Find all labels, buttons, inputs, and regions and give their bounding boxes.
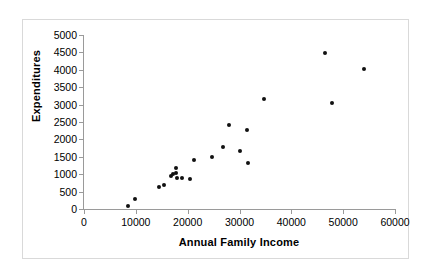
y-axis-tick-label: 1500 [54, 152, 77, 163]
x-axis-tick-label: 0 [81, 217, 87, 228]
data-point [192, 158, 196, 162]
x-axis-tick [136, 209, 137, 214]
data-point [180, 176, 184, 180]
y-axis-tick [79, 139, 84, 140]
x-axis-tick-label: 60000 [380, 217, 409, 228]
data-point [323, 51, 327, 55]
x-axis-tick-label: 40000 [277, 217, 306, 228]
data-point [188, 177, 192, 181]
x-axis-tick [395, 209, 396, 214]
x-axis-tick [84, 209, 85, 214]
data-point [126, 204, 130, 208]
data-point [362, 67, 366, 71]
y-axis-tick [79, 35, 84, 36]
data-point [157, 185, 161, 189]
x-axis-tick [188, 209, 189, 214]
data-point [330, 101, 334, 105]
x-axis-tick-label: 20000 [173, 217, 202, 228]
scatter-chart-figure: Expenditures 050010001500200025003000350… [0, 0, 430, 277]
y-axis-tick-label: 3000 [54, 99, 77, 110]
data-point [221, 145, 225, 149]
y-axis-title: Expenditures [30, 50, 42, 122]
data-point [133, 197, 137, 201]
x-axis-tick-label: 10000 [121, 217, 150, 228]
x-axis-tick [240, 209, 241, 214]
data-point [262, 97, 266, 101]
data-point [238, 149, 242, 153]
y-axis-tick [79, 174, 84, 175]
data-point [162, 183, 166, 187]
y-axis-tick [79, 70, 84, 71]
x-axis-title: Annual Family Income [83, 236, 395, 248]
data-point [227, 123, 231, 127]
y-axis-tick-label: 3500 [54, 82, 77, 93]
y-axis-tick-label: 0 [71, 204, 77, 215]
x-axis-tick [343, 209, 344, 214]
y-axis-tick-label: 4000 [54, 65, 77, 76]
x-axis-tick [291, 209, 292, 214]
y-axis-tick-label: 1000 [54, 169, 77, 180]
y-axis-tick-label: 5000 [54, 30, 77, 41]
plot-area: 0500100015002000250030003500400045005000… [83, 35, 395, 210]
data-point [246, 161, 250, 165]
data-point [245, 128, 249, 132]
y-axis-tick-label: 4500 [54, 47, 77, 58]
y-axis-tick-label: 500 [59, 186, 77, 197]
y-axis-tick [79, 122, 84, 123]
y-axis-tick [79, 87, 84, 88]
data-point [174, 166, 178, 170]
y-axis-tick [79, 52, 84, 53]
data-point [174, 171, 178, 175]
y-axis-tick [79, 192, 84, 193]
y-axis-tick-label: 2500 [54, 117, 77, 128]
y-axis-tick [79, 157, 84, 158]
y-axis-tick-label: 2000 [54, 134, 77, 145]
data-point [210, 155, 214, 159]
x-axis-tick-label: 50000 [329, 217, 358, 228]
y-axis-tick [79, 105, 84, 106]
data-point [175, 176, 179, 180]
x-axis-tick-label: 30000 [225, 217, 254, 228]
